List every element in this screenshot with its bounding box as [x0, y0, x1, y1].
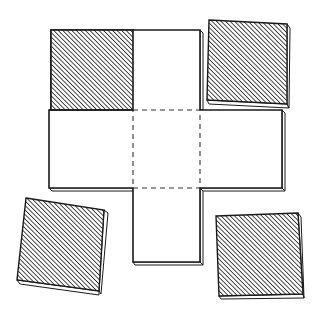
loose-tile-bottom-right [216, 213, 304, 299]
loose-tile-bottom-left [17, 198, 108, 295]
hatched-face-top-left [51, 30, 133, 110]
tile-face [17, 198, 104, 291]
tile-face [216, 213, 303, 296]
tile-face [207, 20, 287, 104]
cube-net-diagram [0, 0, 319, 316]
loose-tile-top-right [207, 20, 290, 108]
